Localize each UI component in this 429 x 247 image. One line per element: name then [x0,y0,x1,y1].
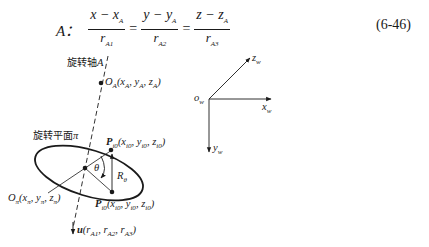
rotation-axis-label: 旋转轴A [67,54,103,69]
z-sub: w [256,58,261,66]
y-axis-label: yw [213,142,222,156]
axis-label-var: A [97,57,103,68]
point-Opi [83,166,88,171]
rotation-plane-label: 旋转平面π [33,127,78,142]
point-Pi0-bottom [110,190,115,195]
u-vector-label: u(rA1, rA2, rA3) [77,224,136,238]
x-axis-label: xw [262,101,271,115]
theta-label: θ [94,162,99,173]
diagram-canvas [0,0,429,247]
y-sub: w [218,148,223,156]
R-theta-label: Rθ [117,170,127,184]
origin-sub: w [199,98,204,106]
axis-label-text: 旋转轴 [67,57,97,68]
plane-label-text: 旋转平面 [33,130,73,141]
plane-label-var: π [73,130,78,141]
z-axis-label: zw [252,52,261,66]
Pi0-bottom-label: Pi0(xi0, yi0, zi0) [95,198,154,212]
z-axis-arrow [209,58,250,99]
radius-line-top [48,150,112,193]
OA-label: OA(xA, yA, zA) [105,76,161,90]
Pi0-top-label: Pi0(xi0, yi0, zi0) [106,136,165,150]
Opi-label: Oπ(xπ, yπ, zπ) [8,192,61,206]
x-sub: w [267,107,272,115]
theta-arc [101,156,105,178]
point-OA [99,81,104,86]
frame-origin-label: ow [194,92,204,106]
R-sub: θ [123,176,126,184]
